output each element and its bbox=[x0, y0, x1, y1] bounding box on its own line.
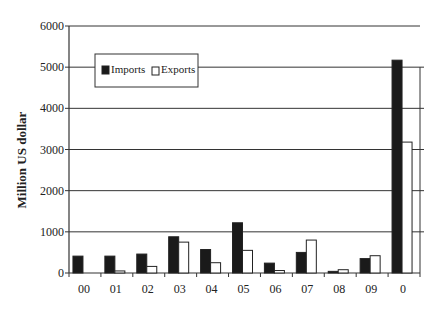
imports-bar bbox=[392, 60, 402, 273]
imports-bar bbox=[73, 256, 83, 273]
x-tick-label: 04 bbox=[206, 282, 218, 296]
imports-bar bbox=[296, 252, 306, 273]
imports-bar bbox=[233, 223, 243, 273]
exports-bar bbox=[179, 242, 189, 273]
x-tick-label: 00 bbox=[78, 282, 90, 296]
imports-bar bbox=[360, 259, 370, 273]
exports-legend-swatch bbox=[152, 67, 159, 75]
imports-bar bbox=[264, 263, 274, 273]
imports-bar bbox=[328, 271, 338, 273]
y-tick-label: 1000 bbox=[40, 225, 64, 239]
exports-legend-label: Exports bbox=[161, 63, 195, 75]
y-tick-label: 0 bbox=[58, 266, 64, 280]
y-tick-label: 3000 bbox=[40, 143, 64, 157]
y-tick-label: 2000 bbox=[40, 184, 64, 198]
imports-legend-swatch bbox=[102, 66, 109, 74]
imports-bar bbox=[169, 237, 179, 273]
exports-bar bbox=[147, 266, 157, 273]
exports-bar bbox=[402, 142, 412, 273]
y-tick-label: 6000 bbox=[40, 19, 64, 33]
x-tick-label: 0 bbox=[400, 282, 406, 296]
x-tick-label: 06 bbox=[269, 282, 281, 296]
exports-bar bbox=[243, 250, 253, 273]
imports-bar bbox=[105, 256, 115, 273]
imports-bar bbox=[201, 250, 211, 273]
x-tick-label: 08 bbox=[333, 282, 345, 296]
x-tick-label: 09 bbox=[365, 282, 377, 296]
exports-bar bbox=[338, 270, 348, 273]
exports-bar bbox=[211, 263, 221, 273]
x-tick-label: 01 bbox=[110, 282, 122, 296]
exports-bar bbox=[274, 271, 284, 273]
x-tick-label: 02 bbox=[142, 282, 154, 296]
exports-bar bbox=[115, 271, 125, 273]
exports-bar bbox=[306, 240, 316, 273]
imports-bar bbox=[137, 254, 147, 273]
x-tick-label: 03 bbox=[174, 282, 186, 296]
x-tick-label: 07 bbox=[301, 282, 313, 296]
imports-legend-label: Imports bbox=[111, 63, 145, 75]
exports-bar bbox=[370, 256, 380, 273]
y-tick-label: 4000 bbox=[40, 101, 64, 115]
bar-chart: 0100020003000400050006000000102030405060… bbox=[0, 0, 443, 319]
x-tick-label: 05 bbox=[238, 282, 250, 296]
y-tick-label: 5000 bbox=[40, 60, 64, 74]
